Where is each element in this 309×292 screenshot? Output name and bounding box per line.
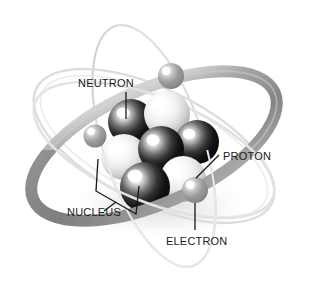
nucleus-label: NUCLEUS [67,206,121,218]
electron-bottom-right [182,177,208,203]
atom-diagram: NEUTRON PROTON NUCLEUS ELECTRON [0,0,309,292]
electron-top-right [158,63,184,89]
neutron-label: NEUTRON [78,77,134,89]
proton-label: PROTON [223,150,271,162]
electron-label: ELECTRON [166,235,228,247]
atom-illustration: NEUTRON PROTON NUCLEUS ELECTRON [0,0,309,292]
electron-left [84,125,107,148]
